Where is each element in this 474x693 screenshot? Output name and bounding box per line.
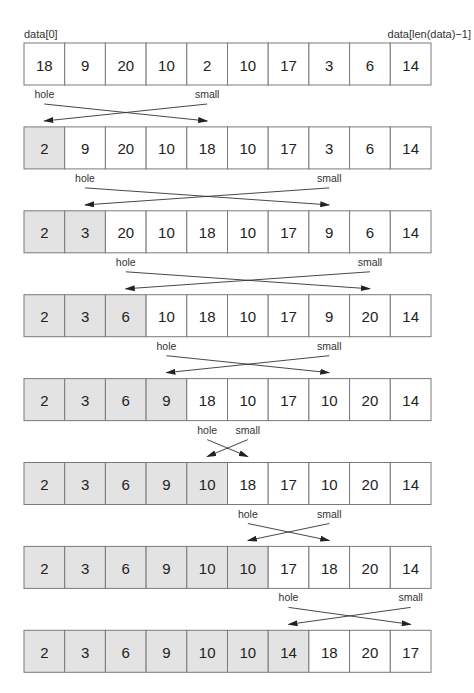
cell-value: 6 bbox=[122, 476, 130, 493]
array-cell: 20 bbox=[350, 379, 391, 421]
cell-value: 6 bbox=[366, 57, 374, 74]
array-cell: 18 bbox=[187, 379, 228, 421]
array-cell: 18 bbox=[228, 463, 269, 505]
cell-value: 18 bbox=[199, 140, 216, 157]
cell-value: 3 bbox=[81, 308, 89, 325]
array-cell: 10 bbox=[228, 630, 269, 672]
cell-value: 10 bbox=[199, 644, 216, 661]
cell-value: 20 bbox=[117, 57, 134, 74]
array-cell: 2 bbox=[24, 295, 65, 337]
array-row: 1892010210173614 bbox=[24, 43, 431, 85]
cell-value: 9 bbox=[162, 560, 170, 577]
cell-value: 10 bbox=[321, 476, 338, 493]
cell-value: 10 bbox=[158, 140, 175, 157]
cell-value: 2 bbox=[40, 560, 48, 577]
array-row: 2369101014182017 bbox=[24, 630, 431, 672]
cell-value: 18 bbox=[321, 560, 338, 577]
cell-value: 10 bbox=[199, 476, 216, 493]
array-cell: 10 bbox=[187, 630, 228, 672]
cell-value: 3 bbox=[325, 140, 333, 157]
small-label: small bbox=[236, 424, 261, 436]
array-row: 2369101017182014 bbox=[24, 546, 431, 588]
array-cell: 10 bbox=[146, 295, 187, 337]
small-label: small bbox=[317, 508, 342, 520]
array-row: 2320101810179614 bbox=[24, 211, 431, 253]
cell-value: 9 bbox=[81, 140, 89, 157]
array-cell: 20 bbox=[105, 211, 146, 253]
array-cell: 14 bbox=[390, 463, 431, 505]
cell-value: 3 bbox=[81, 224, 89, 241]
cell-value: 9 bbox=[162, 476, 170, 493]
cell-value: 10 bbox=[240, 57, 257, 74]
cell-value: 20 bbox=[362, 644, 379, 661]
hole-label: hole bbox=[238, 508, 258, 520]
array-cell: 10 bbox=[228, 546, 269, 588]
small-label: small bbox=[317, 172, 342, 184]
cell-value: 14 bbox=[402, 308, 419, 325]
hole-label: hole bbox=[34, 88, 54, 100]
cell-value: 18 bbox=[199, 224, 216, 241]
array-cell: 18 bbox=[309, 546, 350, 588]
cell-value: 2 bbox=[40, 476, 48, 493]
array-cell: 2 bbox=[24, 127, 65, 169]
array-cell: 6 bbox=[350, 127, 391, 169]
array-cell: 3 bbox=[65, 211, 106, 253]
array-cell: 18 bbox=[24, 43, 65, 85]
cell-value: 14 bbox=[402, 476, 419, 493]
hole-label: hole bbox=[116, 256, 136, 268]
cell-value: 20 bbox=[117, 224, 134, 241]
array-cell: 17 bbox=[268, 211, 309, 253]
array-cell: 14 bbox=[390, 546, 431, 588]
cell-value: 6 bbox=[366, 140, 374, 157]
swap-arrows: holesmall bbox=[157, 340, 342, 373]
array-cell: 9 bbox=[146, 630, 187, 672]
cell-value: 20 bbox=[362, 476, 379, 493]
cell-value: 2 bbox=[40, 644, 48, 661]
cell-value: 2 bbox=[203, 57, 211, 74]
array-cell: 6 bbox=[350, 43, 391, 85]
array-cell: 9 bbox=[146, 463, 187, 505]
array-cell: 17 bbox=[268, 127, 309, 169]
cell-value: 10 bbox=[158, 57, 175, 74]
cell-value: 2 bbox=[40, 140, 48, 157]
cell-value: 17 bbox=[280, 476, 297, 493]
small-label: small bbox=[195, 88, 220, 100]
array-cell: 20 bbox=[350, 295, 391, 337]
cell-value: 9 bbox=[325, 224, 333, 241]
cell-value: 2 bbox=[40, 308, 48, 325]
cell-value: 3 bbox=[81, 476, 89, 493]
cell-value: 18 bbox=[321, 644, 338, 661]
array-cell: 10 bbox=[309, 379, 350, 421]
array-cell: 3 bbox=[309, 127, 350, 169]
cell-value: 10 bbox=[240, 560, 257, 577]
cell-value: 17 bbox=[280, 57, 297, 74]
array-row: 2361018101792014 bbox=[24, 295, 431, 337]
array-cell: 18 bbox=[187, 295, 228, 337]
small-label: small bbox=[358, 256, 383, 268]
array-cell: 2 bbox=[24, 630, 65, 672]
array-row: 2369101817102014 bbox=[24, 463, 431, 505]
array-cell: 17 bbox=[390, 630, 431, 672]
array-cell: 14 bbox=[390, 43, 431, 85]
cell-value: 6 bbox=[122, 644, 130, 661]
first-index-label: data[0] bbox=[24, 28, 58, 40]
array-cell: 2 bbox=[24, 463, 65, 505]
cell-value: 10 bbox=[240, 644, 257, 661]
cell-value: 6 bbox=[122, 560, 130, 577]
cell-value: 2 bbox=[40, 224, 48, 241]
cell-value: 20 bbox=[362, 308, 379, 325]
cell-value: 10 bbox=[158, 224, 175, 241]
array-cell: 9 bbox=[146, 379, 187, 421]
hole-label: hole bbox=[157, 340, 177, 352]
cell-value: 3 bbox=[325, 57, 333, 74]
cell-value: 17 bbox=[402, 644, 419, 661]
array-cell: 18 bbox=[187, 127, 228, 169]
swap-arrows: holesmall bbox=[238, 508, 342, 541]
array-cell: 20 bbox=[350, 463, 391, 505]
array-cell: 14 bbox=[268, 630, 309, 672]
array-cell: 17 bbox=[268, 295, 309, 337]
cell-value: 17 bbox=[280, 560, 297, 577]
array-cell: 3 bbox=[309, 43, 350, 85]
array-cell: 10 bbox=[228, 127, 269, 169]
array-cell: 14 bbox=[390, 127, 431, 169]
